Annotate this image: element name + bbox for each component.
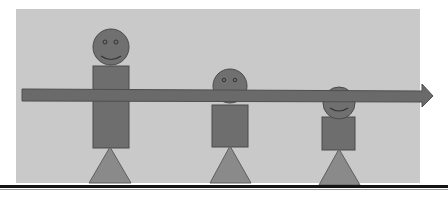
figure-large-body [93,66,129,148]
figure-small-body [322,117,355,150]
figure-large [89,29,131,183]
figures-diagram [0,0,448,197]
figure-medium [210,69,251,183]
divider-rule [0,185,448,188]
figure-large-legs [89,147,131,183]
divider-rule-shadow [0,189,448,190]
figure-small-legs [319,149,360,185]
figure-medium-body [212,105,248,147]
figure-medium-legs [210,146,251,183]
